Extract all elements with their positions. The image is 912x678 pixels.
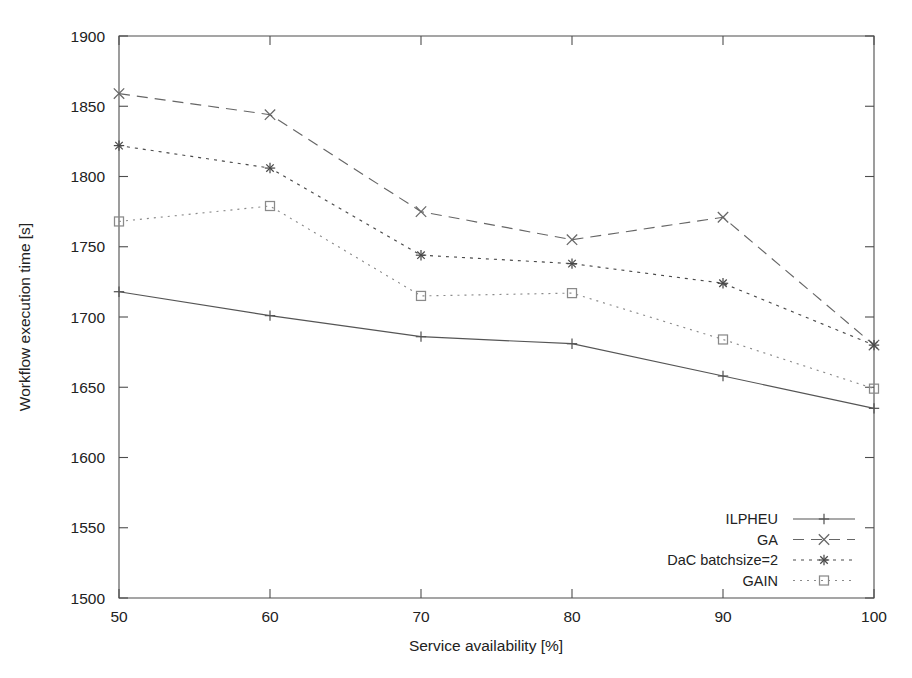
chart-figure: 150015501600165017001750180018501900 506… [0,0,912,678]
series-marker [416,206,426,216]
x-tick-label: 60 [261,608,279,625]
series-line [119,292,874,409]
series-marker [568,289,577,298]
x-tick-label: 80 [563,608,581,625]
legend-label-dac-batchsize-2: DaC batchsize=2 [667,552,778,568]
x-axis-title: Service availability [%] [409,637,563,654]
y-axis-title: Workflow execution time [s] [16,223,33,411]
series-line [119,206,874,389]
series-line [119,94,874,345]
data-series-layer [114,88,879,413]
series-gain [115,202,879,394]
series-marker [114,287,124,297]
series-ilpheu [114,287,879,414]
line-chart-plot: 150015501600165017001750180018501900 506… [0,0,912,678]
series-marker [718,278,728,288]
legend-label-ga: GA [757,532,778,548]
y-tick-label: 1850 [71,98,106,115]
series-ga [114,88,879,350]
series-dac-batchsize-2 [114,140,879,350]
y-tick-label: 1550 [71,519,106,536]
y-tick-label: 1600 [71,449,106,466]
series-marker [416,331,426,341]
chart-legend: ILPHEUGADaC batchsize=2GAIN [667,511,855,589]
series-marker [416,250,426,260]
clipped-figure-caption [0,0,912,4]
series-line [119,146,874,346]
y-tick-label: 1900 [71,28,106,45]
y-tick-label: 1750 [71,238,106,255]
x-tick-label: 70 [412,608,430,625]
series-marker [567,338,577,348]
series-marker [265,310,275,320]
x-tick-label: 50 [110,608,128,625]
series-marker [114,140,124,150]
series-marker [718,371,728,381]
x-tick-label: 100 [861,608,887,625]
legend-label-gain: GAIN [743,573,778,589]
legend-marker-sample [820,576,829,585]
y-tick-label: 1650 [71,379,106,396]
series-marker [869,340,879,350]
series-marker [265,163,275,173]
legend-marker-sample [819,555,829,565]
series-marker [869,403,879,413]
y-tick-label: 1500 [71,590,106,607]
legend-label-ilpheu: ILPHEU [726,511,778,527]
legend-marker-sample [819,514,829,524]
series-marker [719,335,728,344]
y-tick-label: 1800 [71,168,106,185]
x-tick-label: 90 [714,608,732,625]
y-tick-label: 1700 [71,309,106,326]
series-marker [567,258,577,268]
